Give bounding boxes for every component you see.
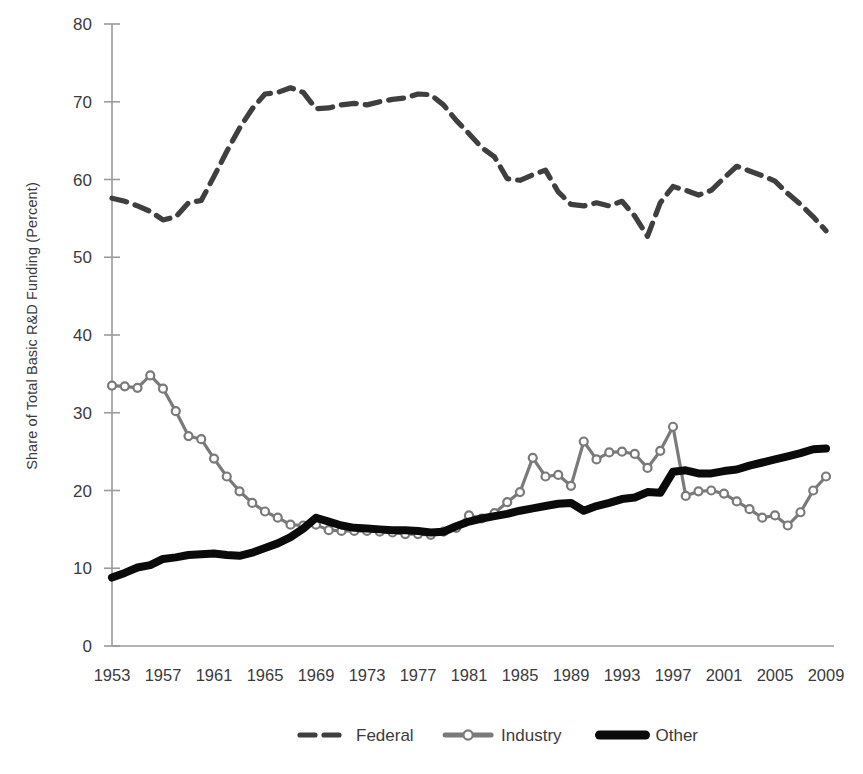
x-axis-tick-label: 1953 bbox=[94, 666, 131, 684]
series-marker-industry bbox=[784, 521, 792, 529]
y-axis-tick-label: 60 bbox=[73, 171, 92, 190]
series-line-federal bbox=[112, 88, 826, 237]
y-axis-tick-label: 40 bbox=[73, 326, 92, 345]
series-marker-industry bbox=[274, 514, 282, 522]
series-marker-industry bbox=[695, 487, 703, 495]
series-marker-industry bbox=[121, 382, 129, 390]
x-axis-tick-label: 1977 bbox=[400, 666, 437, 684]
x-axis-tick-label: 1957 bbox=[145, 666, 182, 684]
legend-label: Other bbox=[656, 726, 699, 745]
x-axis-tick-label: 1969 bbox=[298, 666, 335, 684]
series-marker-industry bbox=[223, 473, 231, 481]
x-axis-tick-label: 1997 bbox=[655, 666, 692, 684]
x-axis-tick-label: 1961 bbox=[196, 666, 233, 684]
y-axis-tick-label: 50 bbox=[73, 248, 92, 267]
legend-label: Industry bbox=[501, 726, 562, 745]
series-marker-industry bbox=[822, 473, 830, 481]
chart-plot-area: 01020304050607080 1953195719611965196919… bbox=[0, 0, 863, 774]
legend-item-other[interactable]: Other bbox=[600, 726, 699, 745]
series-marker-industry bbox=[529, 454, 537, 462]
series-marker-industry bbox=[797, 508, 805, 516]
series-marker-industry bbox=[146, 371, 154, 379]
series-marker-industry bbox=[580, 438, 588, 446]
chart-container: Share of Total Basic R&D Funding (Percen… bbox=[0, 0, 863, 774]
series-marker-industry bbox=[325, 526, 333, 534]
series-marker-industry bbox=[134, 384, 142, 392]
legend-item-industry[interactable]: Industry bbox=[445, 726, 562, 745]
series-marker-industry bbox=[593, 455, 601, 463]
series-marker-industry bbox=[108, 382, 116, 390]
x-axis-tick-label: 1973 bbox=[349, 666, 386, 684]
series-marker-industry bbox=[542, 473, 550, 481]
x-axis-tick-label: 2001 bbox=[706, 666, 743, 684]
y-axis-tick-label: 70 bbox=[73, 93, 92, 112]
y-axis-tick-label: 0 bbox=[83, 637, 92, 656]
series-marker-industry bbox=[172, 407, 180, 415]
x-axis-tick-label: 2005 bbox=[757, 666, 794, 684]
series-marker-industry bbox=[516, 488, 524, 496]
series-marker-industry bbox=[733, 497, 741, 505]
series-marker-industry bbox=[248, 499, 256, 507]
series-marker-industry bbox=[720, 490, 728, 498]
series-marker-industry bbox=[567, 482, 575, 490]
series-marker-industry bbox=[197, 435, 205, 443]
series-marker-industry bbox=[554, 471, 562, 479]
data-series-group bbox=[108, 88, 830, 578]
series-marker-industry bbox=[159, 385, 167, 393]
series-marker-industry bbox=[503, 498, 511, 506]
x-axis-tick-label: 2009 bbox=[808, 666, 845, 684]
y-axis-tick-label: 80 bbox=[73, 15, 92, 34]
y-axis-tick-label: 10 bbox=[73, 559, 92, 578]
series-marker-industry bbox=[758, 514, 766, 522]
series-marker-industry bbox=[210, 455, 218, 463]
legend-marker-icon bbox=[464, 730, 473, 739]
series-marker-industry bbox=[771, 511, 779, 519]
x-axis-tick-label: 1989 bbox=[553, 666, 590, 684]
series-marker-industry bbox=[631, 450, 639, 458]
series-marker-industry bbox=[236, 487, 244, 495]
legend-item-federal[interactable]: Federal bbox=[300, 726, 414, 745]
series-marker-industry bbox=[809, 487, 817, 495]
series-marker-industry bbox=[605, 448, 613, 456]
x-axis: 1953195719611965196919731977198119851989… bbox=[94, 646, 845, 684]
series-marker-industry bbox=[287, 521, 295, 529]
series-marker-industry bbox=[669, 423, 677, 431]
series-marker-industry bbox=[656, 447, 664, 455]
series-marker-industry bbox=[185, 432, 193, 440]
chart-legend: FederalIndustryOther bbox=[300, 726, 698, 745]
y-axis-tick-label: 20 bbox=[73, 482, 92, 501]
series-marker-industry bbox=[644, 464, 652, 472]
series-marker-industry bbox=[261, 507, 269, 515]
series-marker-industry bbox=[707, 487, 715, 495]
x-axis-tick-label: 1965 bbox=[247, 666, 284, 684]
y-axis-tick-label: 30 bbox=[73, 404, 92, 423]
legend-label: Federal bbox=[356, 726, 414, 745]
x-axis-tick-label: 1985 bbox=[502, 666, 539, 684]
y-axis: 01020304050607080 bbox=[73, 15, 120, 656]
x-axis-tick-label: 1993 bbox=[604, 666, 641, 684]
series-marker-industry bbox=[746, 505, 754, 513]
x-axis-tick-label: 1981 bbox=[451, 666, 488, 684]
series-marker-industry bbox=[682, 492, 690, 500]
series-marker-industry bbox=[618, 448, 626, 456]
